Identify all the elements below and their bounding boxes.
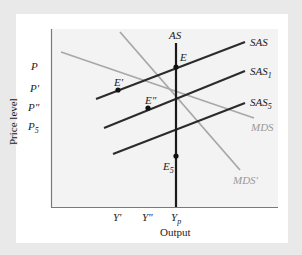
y-axis-title: Price level	[8, 98, 19, 145]
mds-curve	[61, 52, 254, 118]
x-tick-yp: Yp	[171, 212, 181, 226]
sas1-curve	[104, 71, 245, 128]
x-axis-title: Output	[160, 227, 191, 238]
x-tick-y-prime: Y'	[113, 212, 121, 223]
point-e-double-prime-label: E"	[145, 95, 156, 106]
y-tick-p: P	[31, 61, 38, 72]
point-e	[173, 64, 178, 69]
sas1-label: SAS1	[250, 66, 272, 80]
x-tick-y-double-prime: Y"	[142, 212, 153, 223]
point-e-prime-label: E'	[114, 77, 123, 88]
mds-label: MDS	[251, 122, 274, 133]
sas5-label: SAS5	[250, 97, 272, 111]
point-e-label: E	[180, 52, 187, 63]
point-e5-label: E5	[163, 161, 174, 175]
sas-label: SAS	[250, 37, 268, 48]
point-e-prime	[115, 87, 120, 92]
sas5-curve	[113, 103, 245, 154]
y-tick-p-prime: P'	[30, 83, 39, 94]
y-tick-p5: P5	[28, 121, 39, 135]
point-e5	[173, 153, 178, 158]
mds-prime-label: MDS'	[233, 175, 258, 186]
y-tick-p-double-prime: P"	[28, 102, 39, 113]
point-e-double-prime	[145, 105, 150, 110]
as-label: AS	[169, 30, 181, 41]
